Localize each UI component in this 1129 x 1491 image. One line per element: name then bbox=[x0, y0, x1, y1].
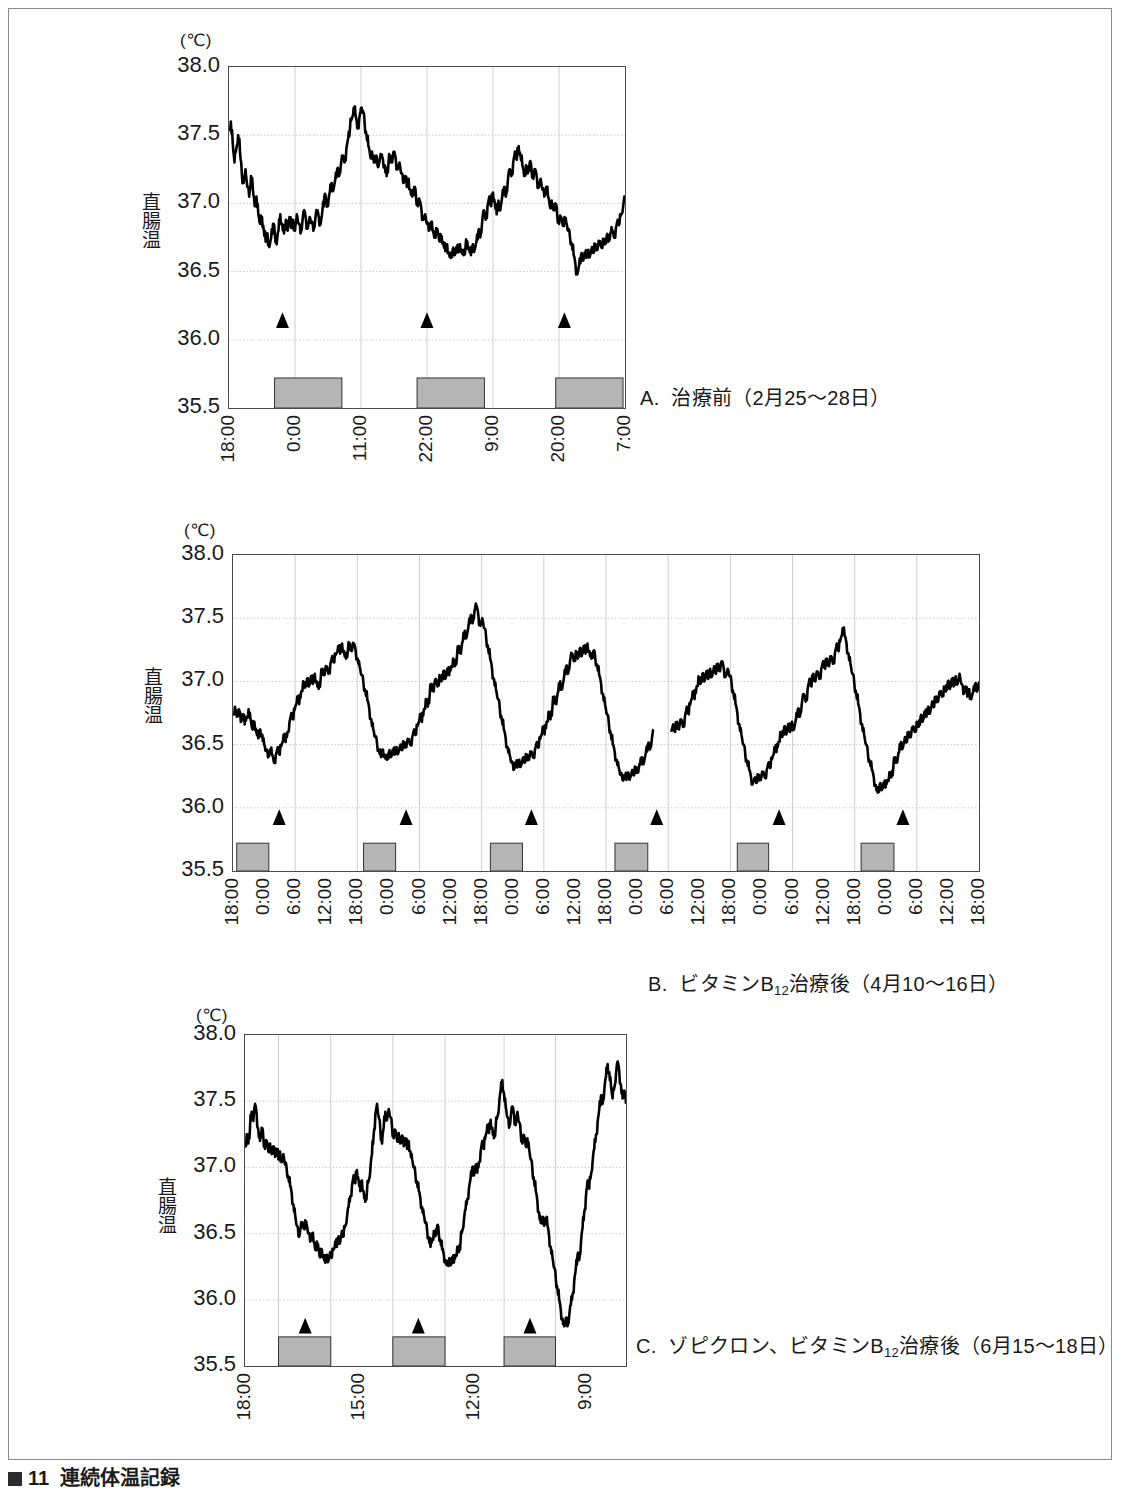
sleep-period-bar bbox=[279, 1337, 331, 1366]
x-tick-label: 0:00 bbox=[749, 878, 771, 915]
x-tick-label: 11:00 bbox=[349, 415, 371, 461]
sleep-onset-marker bbox=[896, 809, 909, 825]
unit-label-b: (℃) bbox=[184, 520, 216, 541]
x-tick-label: 15:00 bbox=[347, 1373, 369, 1421]
sleep-onset-marker bbox=[650, 809, 663, 825]
sleep-period-bar bbox=[393, 1337, 445, 1366]
x-tick-label: 18:00 bbox=[843, 878, 865, 926]
y-tick-label: 35.5 bbox=[158, 856, 224, 882]
x-tick-label: 12:00 bbox=[812, 878, 834, 926]
sleep-onset-marker bbox=[299, 1318, 312, 1334]
y-tick-label: 37.0 bbox=[158, 666, 224, 692]
sleep-onset-marker bbox=[276, 312, 289, 328]
x-tick-label: 12:00 bbox=[439, 878, 461, 926]
sleep-onset-marker bbox=[773, 809, 786, 825]
y-tick-label: 37.5 bbox=[170, 1086, 236, 1112]
y-tick-label: 36.0 bbox=[158, 793, 224, 819]
y-tick-label: 35.5 bbox=[170, 1351, 236, 1377]
x-tick-label: 0:00 bbox=[252, 878, 274, 915]
sleep-period-bar bbox=[504, 1337, 555, 1366]
unit-label-a: (℃) bbox=[180, 30, 212, 51]
temperature-trace-b bbox=[233, 555, 979, 871]
x-tick-label: 6:00 bbox=[656, 878, 678, 915]
sleep-onset-marker bbox=[412, 1318, 425, 1334]
x-tick-label: 7:00 bbox=[613, 415, 635, 452]
x-tick-label: 12:00 bbox=[936, 878, 958, 926]
y-tick-label: 36.0 bbox=[170, 1285, 236, 1311]
x-tick-label: 6:00 bbox=[905, 878, 927, 915]
x-tick-label: 18:00 bbox=[967, 878, 989, 926]
sleep-onset-marker bbox=[421, 312, 434, 328]
y-tick-label: 37.0 bbox=[154, 188, 220, 214]
x-tick-label: 18:00 bbox=[217, 415, 239, 463]
x-tick-label: 12:00 bbox=[462, 1373, 484, 1421]
caption-b: B. ビタミンB12治療後（4月10〜16日） bbox=[648, 968, 1009, 997]
x-tick-label: 12:00 bbox=[563, 878, 585, 926]
caption-c: C. ゾピクロン、ビタミンB12治療後（6月15〜18日） bbox=[636, 1330, 1119, 1359]
sleep-onset-marker bbox=[400, 809, 413, 825]
figure-caption: 11 連続体温記録 bbox=[8, 1462, 180, 1491]
x-tick-label: 18:00 bbox=[345, 878, 367, 926]
plot-area-b bbox=[232, 554, 980, 872]
y-tick-label: 35.5 bbox=[154, 393, 220, 419]
x-tick-label: 0:00 bbox=[501, 878, 523, 915]
temperature-trace-a bbox=[229, 67, 625, 408]
x-tick-label: 18:00 bbox=[470, 878, 492, 926]
sleep-onset-marker bbox=[524, 1318, 537, 1334]
x-tick-label: 12:00 bbox=[314, 878, 336, 926]
x-tick-label: 6:00 bbox=[283, 878, 305, 915]
sleep-onset-marker bbox=[525, 809, 538, 825]
sleep-period-bar bbox=[861, 843, 894, 871]
x-tick-label: 18:00 bbox=[718, 878, 740, 926]
y-tick-label: 37.0 bbox=[170, 1152, 236, 1178]
x-tick-label: 18:00 bbox=[594, 878, 616, 926]
x-tick-label: 0:00 bbox=[376, 878, 398, 915]
plot-area-c bbox=[244, 1034, 627, 1367]
y-tick-label: 38.0 bbox=[158, 540, 224, 566]
sleep-period-bar bbox=[615, 843, 648, 871]
sleep-period-bar bbox=[556, 378, 623, 408]
sleep-onset-marker bbox=[558, 312, 571, 328]
temperature-trace-c bbox=[245, 1035, 626, 1366]
y-tick-label: 38.0 bbox=[154, 52, 220, 78]
y-tick-label: 37.5 bbox=[154, 120, 220, 146]
y-tick-label: 36.5 bbox=[170, 1219, 236, 1245]
x-tick-label: 0:00 bbox=[874, 878, 896, 915]
x-tick-label: 0:00 bbox=[625, 878, 647, 915]
sleep-period-bar bbox=[364, 843, 396, 871]
sleep-onset-marker bbox=[273, 809, 286, 825]
plot-area-a bbox=[228, 66, 626, 409]
y-tick-label: 38.0 bbox=[170, 1020, 236, 1046]
y-tick-label: 36.5 bbox=[154, 257, 220, 283]
y-tick-label: 36.5 bbox=[158, 730, 224, 756]
x-tick-label: 6:00 bbox=[781, 878, 803, 915]
sleep-period-bar bbox=[275, 378, 342, 408]
sleep-period-bar bbox=[237, 843, 269, 871]
x-tick-label: 18:00 bbox=[221, 878, 243, 926]
x-tick-label: 9:00 bbox=[481, 415, 503, 452]
sleep-period-bar bbox=[737, 843, 768, 871]
x-tick-label: 18:00 bbox=[233, 1373, 255, 1421]
caption-a: A. 治療前（2月25〜28日） bbox=[640, 382, 891, 411]
y-tick-label: 36.0 bbox=[154, 325, 220, 351]
sleep-period-bar bbox=[490, 843, 522, 871]
x-tick-label: 6:00 bbox=[532, 878, 554, 915]
x-tick-label: 0:00 bbox=[283, 415, 305, 452]
x-tick-label: 9:00 bbox=[574, 1373, 596, 1410]
x-tick-label: 22:00 bbox=[415, 415, 437, 463]
x-tick-label: 6:00 bbox=[408, 878, 430, 915]
sleep-period-bar bbox=[417, 378, 484, 408]
figure-bullet-icon bbox=[8, 1472, 22, 1486]
x-tick-label: 20:00 bbox=[547, 415, 569, 463]
y-tick-label: 37.5 bbox=[158, 603, 224, 629]
x-tick-label: 12:00 bbox=[687, 878, 709, 926]
